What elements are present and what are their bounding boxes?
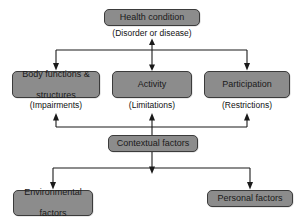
node-participation-label: Participation — [219, 79, 275, 90]
sublabel-restrictions: (Restrictions) — [202, 100, 292, 110]
node-body-line2: structures — [19, 90, 93, 101]
node-contextual-factors-label: Contextual factors — [114, 138, 193, 149]
connector-contextual-to-factors — [50, 152, 253, 190]
connector-health-activity — [149, 39, 155, 72]
node-personal-factors-label: Personal factors — [214, 193, 285, 204]
node-activity-label: Activity — [135, 79, 170, 90]
sublabel-limitations: (Limitations) — [108, 100, 196, 110]
node-personal-factors[interactable]: Personal factors — [207, 190, 293, 207]
node-body-line1: Body functions & — [19, 69, 93, 80]
node-environmental-factors[interactable]: Environmental factors — [13, 190, 93, 216]
node-activity[interactable]: Activity — [112, 71, 192, 98]
node-environmental-line2: factors — [21, 208, 85, 219]
sublabel-health-condition: (Disorder or disease) — [88, 28, 216, 38]
node-environmental-factors-label: Environmental factors — [18, 187, 88, 219]
node-health-condition[interactable]: Health condition — [104, 9, 200, 26]
node-contextual-factors[interactable]: Contextual factors — [108, 135, 198, 152]
icf-diagram: Health condition (Disorder or disease) B… — [0, 0, 303, 224]
node-participation[interactable]: Participation — [204, 71, 290, 98]
node-body-functions-structures-label: Body functions & structures — [16, 69, 96, 101]
node-body-functions-structures[interactable]: Body functions & structures — [12, 71, 100, 98]
connector-contextual-to-domains — [53, 113, 250, 135]
node-health-condition-label: Health condition — [117, 12, 188, 23]
sublabel-impairments: (Impairments) — [12, 100, 100, 110]
node-environmental-line1: Environmental — [21, 187, 85, 198]
